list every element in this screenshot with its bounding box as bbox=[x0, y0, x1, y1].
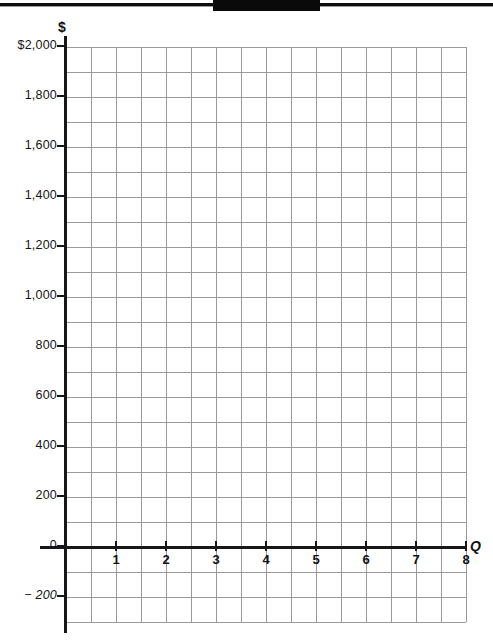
gridline-horizontal bbox=[66, 472, 466, 473]
y-axis-tick bbox=[57, 245, 67, 247]
y-axis-line bbox=[64, 36, 67, 633]
y-axis-tick-label: 1,600 bbox=[1, 138, 57, 152]
gridline-horizontal bbox=[66, 622, 466, 623]
x-axis-tick-label: 3 bbox=[204, 552, 228, 567]
x-axis-tick bbox=[115, 541, 117, 551]
gridline-vertical bbox=[466, 47, 467, 622]
x-axis-tick bbox=[365, 541, 367, 551]
x-axis-tick bbox=[165, 541, 167, 551]
gridline-horizontal bbox=[66, 522, 466, 523]
gridline-horizontal bbox=[66, 247, 466, 248]
gridline-vertical bbox=[441, 47, 442, 622]
y-axis-tick bbox=[57, 395, 67, 397]
gridline-horizontal bbox=[66, 372, 466, 373]
x-axis-tick-label: 2 bbox=[154, 552, 178, 567]
gridline-horizontal bbox=[66, 97, 466, 98]
y-axis-tick-label: 0 bbox=[1, 538, 57, 552]
gridline-horizontal bbox=[66, 572, 466, 573]
gridline-vertical bbox=[166, 47, 167, 622]
gridline-horizontal bbox=[66, 122, 466, 123]
y-axis-tick-label: 1,400 bbox=[1, 188, 57, 202]
y-axis-tick-label: 600 bbox=[1, 388, 57, 402]
x-axis-tick-label: 5 bbox=[304, 552, 328, 567]
y-axis-tick-label: 1,000 bbox=[1, 288, 57, 302]
x-axis-tick-label: 1 bbox=[104, 552, 128, 567]
graph-paper-page: $2,0001,8001,6001,4001,2001,000800600400… bbox=[0, 0, 493, 640]
y-axis-tick-label: 400 bbox=[1, 438, 57, 452]
gridline-horizontal bbox=[66, 297, 466, 298]
gridline-horizontal bbox=[66, 422, 466, 423]
y-axis-tick bbox=[57, 45, 67, 47]
gridline-vertical bbox=[116, 47, 117, 622]
y-axis-tick bbox=[57, 295, 67, 297]
y-axis-tick bbox=[57, 495, 67, 497]
y-axis-tick-label: 1,200 bbox=[1, 238, 57, 252]
gridline-vertical bbox=[91, 47, 92, 622]
gridline-vertical bbox=[366, 47, 367, 622]
y-axis-tick bbox=[57, 95, 67, 97]
y-axis-tick-label: 200 bbox=[1, 488, 57, 502]
y-axis-tick bbox=[57, 595, 67, 597]
y-axis-tick bbox=[57, 195, 67, 197]
y-axis-tick bbox=[57, 545, 67, 547]
gridline-vertical bbox=[341, 47, 342, 622]
y-axis-tick bbox=[57, 345, 67, 347]
gridline-horizontal bbox=[66, 172, 466, 173]
y-axis-tick bbox=[57, 445, 67, 447]
gridline-vertical bbox=[241, 47, 242, 622]
x-axis-line bbox=[40, 546, 466, 549]
gridline-horizontal bbox=[66, 72, 466, 73]
plot-grid-area bbox=[66, 47, 466, 622]
gridline-horizontal bbox=[66, 347, 466, 348]
gridline-horizontal bbox=[66, 497, 466, 498]
gridline-vertical bbox=[266, 47, 267, 622]
top-black-block bbox=[213, 0, 320, 11]
gridline-horizontal bbox=[66, 397, 466, 398]
gridline-horizontal bbox=[66, 47, 466, 48]
x-axis-title: Q bbox=[470, 538, 481, 554]
x-axis-tick-label: 7 bbox=[404, 552, 428, 567]
y-axis-tick-label: $2,000 bbox=[1, 38, 57, 52]
y-axis-tick-label: 1,800 bbox=[1, 88, 57, 102]
x-axis-tick bbox=[465, 541, 467, 551]
gridline-vertical bbox=[291, 47, 292, 622]
gridline-horizontal bbox=[66, 322, 466, 323]
x-axis-tick bbox=[215, 541, 217, 551]
x-axis-tick-label: 8 bbox=[454, 552, 478, 567]
gridline-horizontal bbox=[66, 272, 466, 273]
x-axis-tick bbox=[415, 541, 417, 551]
gridline-horizontal bbox=[66, 222, 466, 223]
gridline-vertical bbox=[191, 47, 192, 622]
x-axis-tick bbox=[315, 541, 317, 551]
x-axis-tick-label: 4 bbox=[254, 552, 278, 567]
gridline-horizontal bbox=[66, 197, 466, 198]
gridline-horizontal bbox=[66, 447, 466, 448]
gridline-vertical bbox=[216, 47, 217, 622]
gridline-vertical bbox=[141, 47, 142, 622]
gridline-vertical bbox=[316, 47, 317, 622]
y-axis-tick-label: − 200 bbox=[1, 588, 57, 602]
y-axis-tick-label: 800 bbox=[1, 338, 57, 352]
gridline-vertical bbox=[391, 47, 392, 622]
x-axis-tick bbox=[265, 541, 267, 551]
y-axis-tick bbox=[57, 145, 67, 147]
y-axis-title: $ bbox=[58, 19, 66, 35]
x-axis-tick-label: 6 bbox=[354, 552, 378, 567]
gridline-horizontal bbox=[66, 147, 466, 148]
gridline-vertical bbox=[416, 47, 417, 622]
gridline-horizontal bbox=[66, 597, 466, 598]
